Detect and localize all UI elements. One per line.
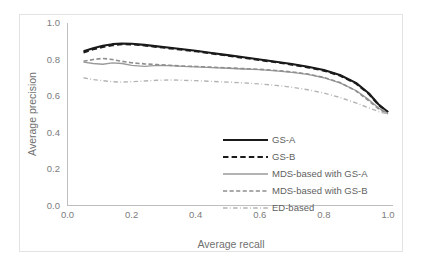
legend-label: MDS-based with GS-A: [272, 168, 368, 179]
x-tick-label: 0.0: [61, 209, 74, 220]
series-line: [84, 78, 388, 115]
y-tick-label: 1.0: [47, 17, 60, 28]
x-tick-label: 0.4: [189, 209, 202, 220]
y-tick-labels: 0.00.20.40.60.81.0: [47, 17, 60, 211]
legend-label: ED-based: [272, 202, 314, 213]
y-tick-label: 0.4: [47, 127, 60, 138]
series-lines: [84, 43, 388, 114]
y-axis-title: Average precision: [26, 72, 38, 156]
legend-label: GS-B: [272, 151, 295, 162]
x-tick-label: 0.6: [253, 209, 266, 220]
plot-canvas: 0.00.20.40.60.81.0 0.00.20.40.60.81.0 GS…: [0, 0, 422, 268]
legend-label: MDS-based with GS-B: [272, 185, 368, 196]
y-tick-label: 0.2: [47, 163, 60, 174]
legend-label: GS-A: [272, 134, 296, 145]
series-line: [84, 62, 388, 113]
x-tick-label: 1.0: [381, 209, 394, 220]
x-tick-label: 0.8: [317, 209, 330, 220]
x-axis-title: Average recall: [198, 238, 265, 250]
average-precision-recall-chart: 0.00.20.40.60.81.0 0.00.20.40.60.81.0 GS…: [0, 0, 422, 268]
series-line: [84, 44, 388, 112]
series-line: [84, 58, 388, 113]
chart-legend: GS-AGS-BMDS-based with GS-AMDS-based wit…: [223, 134, 368, 213]
x-axis-group: 0.00.20.40.60.81.0: [61, 206, 395, 221]
x-tick-label: 0.2: [125, 209, 138, 220]
y-axis-group: 0.00.20.40.60.81.0: [47, 17, 68, 211]
x-tick-labels: 0.00.20.40.60.81.0: [61, 209, 395, 220]
y-tick-label: 0.8: [47, 54, 60, 65]
y-tick-label: 0.0: [47, 200, 60, 211]
y-tick-label: 0.6: [47, 90, 60, 101]
